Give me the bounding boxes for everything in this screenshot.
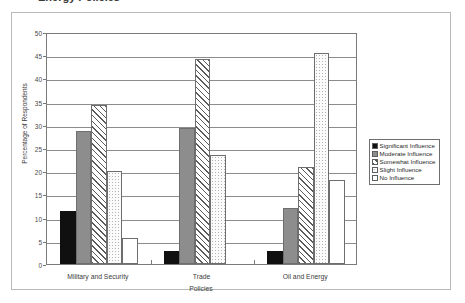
bar-no-influence-oil-and-energy xyxy=(329,180,345,264)
legend-swatch-icon xyxy=(372,175,378,181)
y-axis-tick-mark xyxy=(43,242,46,243)
bar-significant-influence-trade xyxy=(164,251,180,264)
y-axis-tick-mark xyxy=(43,195,46,196)
y-axis-tick-label: 50 xyxy=(35,30,42,37)
x-axis-separator xyxy=(254,260,255,264)
y-axis-tick-label: 0 xyxy=(38,262,42,269)
bar-significant-influence-military-and-security xyxy=(60,211,76,264)
y-axis-tick-mark xyxy=(43,33,46,34)
y-axis-tick-mark xyxy=(43,265,46,266)
legend-label: Slight Influence xyxy=(380,166,422,174)
chart-legend: Significant InfluenceModerate InfluenceS… xyxy=(369,139,440,185)
y-axis-tick-mark xyxy=(43,103,46,104)
legend-swatch-icon xyxy=(372,151,378,157)
x-axis-category-label: Trade xyxy=(193,273,211,280)
y-axis-tick-mark xyxy=(43,126,46,127)
y-axis-tick-label: 45 xyxy=(35,53,42,60)
y-axis-tick-mark xyxy=(43,172,46,173)
y-axis-tick-label: 25 xyxy=(35,146,42,153)
bar-moderate-influence-oil-and-energy xyxy=(283,208,299,264)
bar-slight-influence-military-and-security xyxy=(107,171,123,264)
legend-item: Significant Influence xyxy=(372,142,436,150)
x-axis-title: Policies xyxy=(189,285,212,292)
legend-label: No Influence xyxy=(380,174,415,182)
bar-somewhat-influence-oil-and-energy xyxy=(298,167,314,264)
legend-label: Moderate Influence xyxy=(380,150,433,158)
y-axis-tick-mark xyxy=(43,56,46,57)
y-axis-tick-label: 40 xyxy=(35,76,42,83)
y-axis-tick-mark xyxy=(43,219,46,220)
bar-moderate-influence-trade xyxy=(179,128,195,264)
legend-label: Significant Influence xyxy=(380,142,435,150)
y-axis-tick-label: 35 xyxy=(35,99,42,106)
chart-title: Energy Policies xyxy=(38,0,120,3)
bar-moderate-influence-military-and-security xyxy=(76,131,92,264)
gridline xyxy=(47,57,356,58)
legend-item: Slight Influence xyxy=(372,166,436,174)
legend-swatch-icon xyxy=(372,143,378,149)
legend-item: Moderate Influence xyxy=(372,150,436,158)
y-axis-title: Percentage of Respondents xyxy=(21,54,28,194)
legend-swatch-icon xyxy=(372,167,378,173)
bar-somewhat-influence-military-and-security xyxy=(91,105,107,264)
y-axis-tick-label: 30 xyxy=(35,122,42,129)
y-axis-tick-label: 20 xyxy=(35,169,42,176)
bar-somewhat-influence-trade xyxy=(195,59,211,264)
y-axis-tick-labels: 05101520253035404550 xyxy=(26,0,42,303)
plot-area xyxy=(46,33,357,265)
bar-no-influence-military-and-security xyxy=(122,238,138,264)
bar-significant-influence-oil-and-energy xyxy=(267,251,283,264)
x-axis-category-label: Oil and Energy xyxy=(283,273,328,280)
legend-item: Somewhat Influence xyxy=(372,158,436,166)
legend-swatch-icon xyxy=(372,159,378,165)
x-axis-category-label: Military and Security xyxy=(67,273,128,280)
bar-slight-influence-oil-and-energy xyxy=(314,53,330,264)
legend-item: No Influence xyxy=(372,174,436,182)
bar-slight-influence-trade xyxy=(210,155,226,264)
y-axis-tick-label: 15 xyxy=(35,192,42,199)
legend-label: Somewhat Influence xyxy=(380,158,436,166)
y-axis-tick-label: 5 xyxy=(38,238,42,245)
chart-title-strip: Energy Policies xyxy=(0,0,465,9)
y-axis-tick-mark xyxy=(43,79,46,80)
y-axis-tick-mark xyxy=(43,149,46,150)
x-axis-separator xyxy=(151,260,152,264)
y-axis-tick-label: 10 xyxy=(35,215,42,222)
